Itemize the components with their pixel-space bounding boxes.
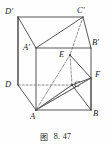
vertex-label-Cp: C' bbox=[77, 6, 85, 15]
vertex-label-B: B bbox=[93, 109, 98, 118]
vertex-label-F: F bbox=[95, 70, 100, 79]
edge-D-A bbox=[18, 85, 36, 110]
vertex-label-E: E bbox=[59, 50, 64, 59]
segment-A-F-construction bbox=[36, 78, 91, 110]
geometry-figure: D'C'A'B'DCABEF 图 8. 47 bbox=[0, 0, 111, 144]
vertex-dot-A bbox=[35, 109, 37, 111]
caption-label: 图 bbox=[40, 131, 48, 142]
edge-E-F bbox=[70, 55, 91, 78]
vertex-dot-C bbox=[71, 84, 73, 86]
edge-Cp-E bbox=[70, 17, 83, 55]
edge-A-E bbox=[36, 55, 70, 110]
vertex-label-Dp: D' bbox=[5, 7, 13, 16]
edge-Cp-Bp bbox=[83, 17, 91, 48]
figure-caption: 图 8. 47 bbox=[0, 129, 111, 144]
vertex-label-C: C bbox=[74, 80, 80, 89]
segment-A-C-construction bbox=[36, 85, 72, 110]
edge-E-C bbox=[70, 55, 72, 85]
vertex-dot-E bbox=[69, 54, 71, 56]
vertex-label-Ap: A' bbox=[23, 43, 30, 52]
vertex-label-D: D bbox=[5, 80, 11, 89]
edge-Ap-Cp bbox=[36, 17, 83, 48]
vertex-label-A: A bbox=[30, 112, 35, 121]
caption-number: 8. 47 bbox=[54, 132, 72, 141]
edge-layer bbox=[18, 17, 91, 110]
vertex-label-Bp: B' bbox=[92, 38, 99, 47]
